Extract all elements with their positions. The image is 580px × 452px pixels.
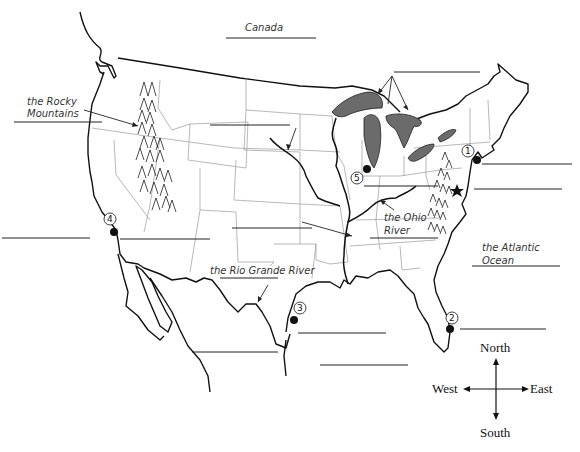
compass-east: East xyxy=(530,381,552,397)
compass-rose xyxy=(463,358,529,420)
us-map: 1 2 3 4 5 xyxy=(0,0,580,452)
marker-3-dot xyxy=(290,316,298,324)
compass-west: West xyxy=(432,381,458,397)
arrow-west-icon xyxy=(463,386,470,392)
arrow-north-icon xyxy=(493,358,499,365)
svg-text:2: 2 xyxy=(449,313,455,323)
compass-south: South xyxy=(480,425,510,441)
rivers xyxy=(270,118,416,284)
label-ohio-river-1: the Ohio xyxy=(384,212,427,224)
label-ohio-river-2: River xyxy=(384,225,410,237)
svg-text:5: 5 xyxy=(354,173,360,183)
capital-star-icon xyxy=(450,184,464,197)
rocky-mountains-symbols xyxy=(136,82,176,212)
answer-blanks xyxy=(2,38,572,365)
state-borders xyxy=(92,78,490,278)
arrow-south-icon xyxy=(493,413,499,420)
appalachian-mountains-symbols xyxy=(428,152,452,234)
compass-north: North xyxy=(480,340,510,356)
label-rio-grande: the Rio Grande River xyxy=(210,265,315,277)
marker-4-dot xyxy=(110,228,118,236)
label-canada: Canada xyxy=(245,22,283,34)
arrow-east-icon xyxy=(522,386,529,392)
label-atlantic-1: the Atlantic xyxy=(482,242,540,254)
svg-text:3: 3 xyxy=(297,303,303,313)
label-atlantic-2: Ocean xyxy=(482,255,514,267)
label-rocky-mountains-1: the Rocky xyxy=(27,96,77,108)
svg-text:4: 4 xyxy=(107,214,113,224)
marker-1-dot xyxy=(473,156,481,164)
marker-5-dot xyxy=(363,165,371,173)
svg-text:1: 1 xyxy=(465,146,471,156)
great-lakes xyxy=(332,92,456,168)
us-outline xyxy=(80,12,528,392)
label-rocky-mountains-2: Mountains xyxy=(27,108,79,120)
marker-2-dot xyxy=(446,325,454,333)
